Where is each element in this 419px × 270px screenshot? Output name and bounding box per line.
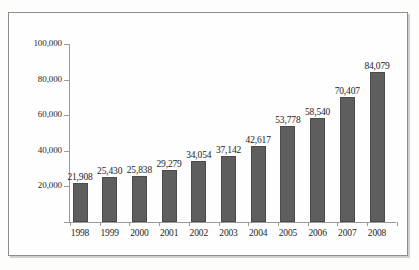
x-axis-tick-mark — [100, 222, 101, 226]
chart-screenshot: 100,00080,00060,00040,00020,000 19981999… — [0, 0, 419, 270]
bar-value-label: 25,838 — [123, 165, 155, 175]
x-axis-tick-mark — [219, 222, 220, 226]
bar-value-label: 84,079 — [361, 61, 393, 71]
x-axis-tick-mark — [308, 222, 309, 226]
y-axis-tick-mark — [64, 222, 69, 223]
y-axis-tick-label: 20,000 — [14, 181, 62, 190]
x-axis-tick-mark — [70, 222, 71, 226]
bar — [221, 156, 236, 222]
bar-value-label: 25,430 — [94, 166, 126, 176]
bar-value-label: 21,908 — [64, 172, 96, 182]
y-axis-tick-mark — [64, 115, 69, 116]
bar-value-label: 29,279 — [153, 159, 185, 169]
bar — [280, 126, 295, 222]
y-axis-tick-label: 60,000 — [14, 110, 62, 119]
bar — [191, 161, 206, 222]
y-axis-line — [69, 44, 70, 223]
x-axis-tick-mark — [278, 222, 279, 226]
bar-chart-plot-area: 100,00080,00060,00040,00020,000 19981999… — [0, 0, 419, 270]
bar-value-label: 53,778 — [272, 115, 304, 125]
y-axis-tick-mark — [64, 151, 69, 152]
y-axis-tick-label: 100,000 — [14, 39, 62, 48]
y-axis-tick-label-text: 80,000 — [14, 75, 62, 84]
x-axis-tick-mark — [397, 222, 398, 226]
y-axis-tick-label-text: 40,000 — [14, 146, 62, 155]
x-axis-line — [69, 222, 396, 223]
bar — [251, 146, 266, 222]
bar-value-label: 34,054 — [183, 150, 215, 160]
bar-value-label: 42,617 — [242, 135, 274, 145]
y-axis-tick-mark — [64, 186, 69, 187]
bar — [132, 176, 147, 222]
x-axis-tick-mark — [159, 222, 160, 226]
bar-value-label: 70,407 — [331, 86, 363, 96]
y-axis-tick-mark — [64, 44, 69, 45]
y-axis-tick-label-text: 60,000 — [14, 110, 62, 119]
bar-value-label: 37,142 — [213, 145, 245, 155]
y-axis-tick-label: 40,000 — [14, 146, 62, 155]
bar — [162, 170, 177, 222]
x-axis-tick-mark — [129, 222, 130, 226]
y-axis-tick-mark — [64, 80, 69, 81]
bar — [102, 177, 117, 222]
x-axis-tick-mark — [367, 222, 368, 226]
x-axis-tick-mark — [248, 222, 249, 226]
bar-value-label: 58,540 — [302, 107, 334, 117]
bar — [310, 118, 325, 222]
bar — [370, 72, 385, 222]
bar — [73, 183, 88, 222]
y-axis-tick-label: 80,000 — [14, 75, 62, 84]
y-axis-tick-label-text: 20,000 — [14, 181, 62, 190]
x-axis-tick-mark — [189, 222, 190, 226]
x-axis-category-label: 2008 — [360, 228, 394, 239]
y-axis-tick-label-text: 100,000 — [14, 39, 62, 48]
bar — [340, 97, 355, 222]
x-axis-tick-mark — [337, 222, 338, 226]
